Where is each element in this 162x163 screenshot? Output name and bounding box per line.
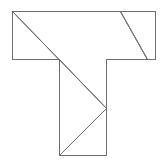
tangram-diagram xyxy=(0,0,162,163)
